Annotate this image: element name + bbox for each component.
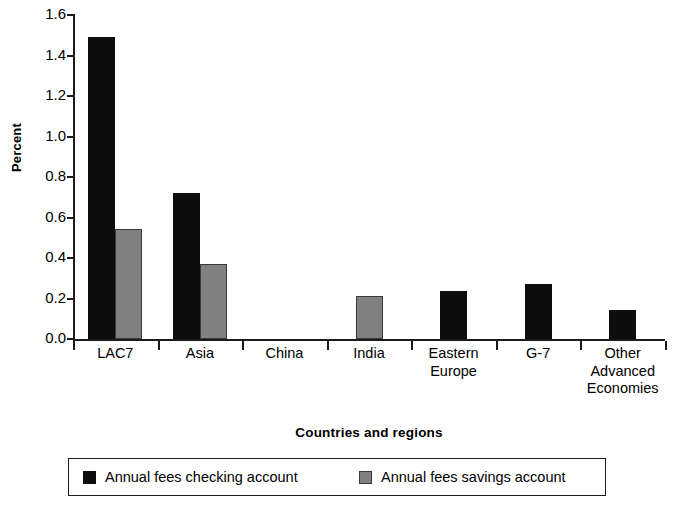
y-axis-tick	[67, 217, 74, 219]
bar-savings	[115, 229, 142, 339]
y-axis-tick-label: 1.0	[45, 127, 66, 145]
legend-swatch-savings-icon	[359, 471, 372, 484]
y-axis-tick-label: 0.8	[45, 167, 66, 185]
legend-label-checking: Annual fees checking account	[105, 469, 298, 485]
bar-checking	[173, 193, 200, 339]
y-axis-tick	[67, 55, 74, 57]
y-axis-tick	[67, 257, 74, 259]
y-axis-tick	[67, 298, 74, 300]
bar-checking	[88, 37, 115, 339]
bar-checking	[609, 310, 636, 339]
legend-entry-checking: Annual fees checking account	[83, 469, 298, 485]
plot-area: 0.00.20.40.60.81.01.21.41.6	[73, 14, 665, 340]
y-axis-title: Percent	[9, 108, 24, 188]
chart-legend: Annual fees checking account Annual fees…	[68, 458, 606, 496]
bar-savings	[356, 296, 383, 339]
y-axis-tick	[67, 136, 74, 138]
y-axis-tick-label: 1.2	[45, 86, 66, 104]
y-axis-tick	[67, 14, 74, 16]
legend-swatch-checking-icon	[83, 471, 96, 484]
x-axis-title: Countries and regions	[73, 425, 665, 440]
bar-chart-figure: Percent 0.00.20.40.60.81.01.21.41.6 Coun…	[0, 0, 674, 507]
bar-checking	[440, 291, 467, 339]
y-axis-tick	[67, 338, 74, 340]
y-axis-tick-label: 1.6	[45, 5, 66, 23]
bar-savings	[200, 264, 227, 339]
y-axis-tick-label: 0.4	[45, 248, 66, 266]
y-axis-tick-label: 1.4	[45, 46, 66, 64]
x-axis-line	[73, 339, 665, 341]
x-axis-category-label: Other Advanced Economies	[566, 345, 674, 398]
y-axis-tick-label: 0.6	[45, 208, 66, 226]
y-axis-tick	[67, 95, 74, 97]
legend-entry-savings: Annual fees savings account	[359, 469, 566, 485]
y-axis-tick	[67, 176, 74, 178]
bar-checking	[525, 284, 552, 339]
y-axis-tick-label: 0.2	[45, 289, 66, 307]
legend-label-savings: Annual fees savings account	[381, 469, 566, 485]
